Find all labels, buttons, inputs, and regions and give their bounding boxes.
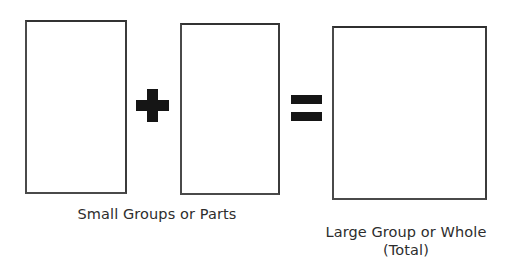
plus-operator-icon — [136, 89, 169, 122]
whole-caption: Large Group or Whole (Total) — [306, 205, 506, 261]
whole-caption-line-1: Large Group or Whole — [326, 224, 487, 240]
plus-vertical-bar — [147, 89, 158, 122]
equals-top-bar — [291, 95, 322, 104]
equals-bottom-bar — [291, 112, 322, 121]
whole-rectangle — [332, 26, 487, 200]
whole-caption-line-2: (Total) — [306, 241, 506, 259]
part-one-rectangle — [25, 20, 127, 194]
equals-operator-icon — [291, 95, 322, 121]
part-two-rectangle — [180, 23, 280, 195]
parts-caption: Small Groups or Parts — [6, 205, 308, 223]
